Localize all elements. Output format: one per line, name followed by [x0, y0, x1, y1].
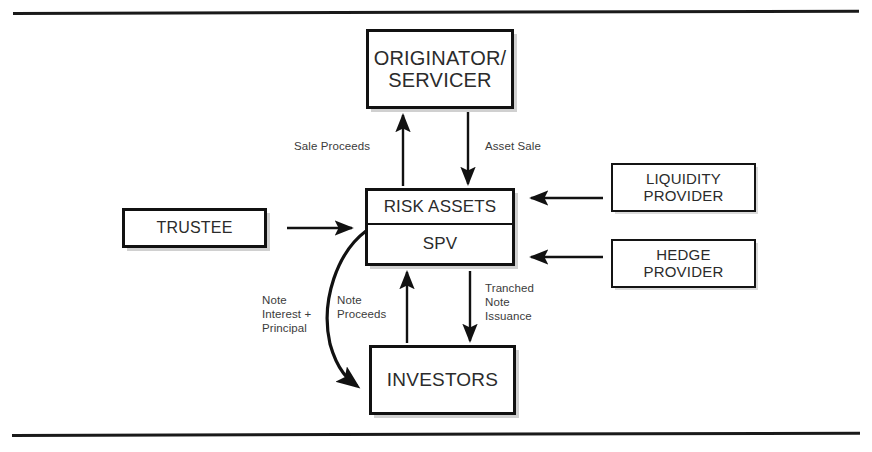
box-spv[interactable]: RISK ASSETS SPV	[365, 188, 515, 266]
box-liquidity-provider[interactable]: LIQUIDITY PROVIDER	[611, 163, 756, 212]
bottom-horizontal-rule	[12, 432, 860, 437]
spv-risk-assets-label: RISK ASSETS	[368, 191, 512, 225]
label-tranched-note-issuance: Tranched Note Issuance	[485, 281, 534, 323]
label-note-interest-principal: Note Interest + Principal	[262, 293, 311, 335]
spv-name-label: SPV	[368, 225, 512, 263]
box-trustee[interactable]: TRUSTEE	[122, 208, 267, 248]
label-note-proceeds: Note Proceeds	[337, 293, 386, 321]
box-originator-servicer[interactable]: ORIGINATOR/ SERVICER	[366, 29, 514, 109]
label-sale-proceeds: Sale Proceeds	[294, 139, 370, 153]
box-investors[interactable]: INVESTORS	[369, 345, 516, 415]
box-hedge-provider[interactable]: HEDGE PROVIDER	[611, 239, 756, 288]
diagram-canvas: ORIGINATOR/ SERVICER RISK ASSETS SPV TRU…	[0, 0, 872, 452]
label-asset-sale: Asset Sale	[485, 139, 541, 153]
top-horizontal-rule	[13, 10, 859, 15]
